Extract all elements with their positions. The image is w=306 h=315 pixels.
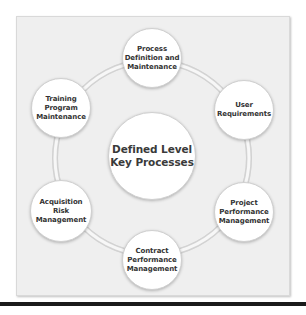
node-label: Acquisition Risk	[31, 198, 91, 216]
node-label: User	[217, 101, 271, 110]
node-training-program-maintenance: Training Program Maintenance	[31, 78, 91, 138]
center-label-line2: Key Processes	[110, 156, 194, 169]
node-label: Training	[36, 95, 86, 104]
node-label: Process	[125, 45, 180, 54]
center-node-defined-level-key-processes: Defined Level Key Processes	[108, 112, 196, 200]
node-acquisition-risk-management: Acquisition Risk Management	[30, 180, 92, 242]
node-process-definition-and-maintenance: Process Definition and Maintenance	[122, 28, 182, 88]
node-contract-performance-management: Contract Performance Management	[122, 230, 182, 290]
node-label: Performance	[127, 256, 178, 265]
node-label: Maintenance	[36, 113, 86, 122]
node-label: Project	[219, 199, 270, 208]
node-label: Program	[36, 104, 86, 113]
node-label: Contract	[127, 247, 178, 256]
node-label: Definition and	[125, 54, 180, 63]
node-user-requirements: User Requirements	[214, 80, 274, 140]
node-label: Performance	[219, 208, 270, 217]
node-label: Management	[127, 265, 178, 274]
node-label: Requirements	[217, 110, 271, 119]
center-label-line1: Defined Level	[110, 143, 194, 156]
node-label: Management	[31, 216, 91, 225]
node-project-performance-management: Project Performance Management	[214, 182, 274, 242]
bottom-divider	[0, 302, 306, 306]
node-label: Management	[219, 217, 270, 226]
node-label: Maintenance	[125, 63, 180, 72]
